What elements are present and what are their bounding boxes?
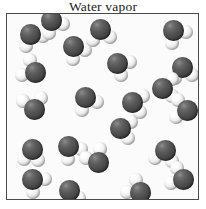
oxygen-atom bbox=[177, 100, 198, 121]
oxygen-atom bbox=[22, 139, 43, 160]
oxygen-atom bbox=[63, 36, 84, 57]
oxygen-atom bbox=[75, 87, 96, 108]
oxygen-atom bbox=[24, 99, 45, 120]
oxygen-atom bbox=[58, 136, 79, 157]
oxygen-atom bbox=[107, 53, 128, 74]
oxygen-atom bbox=[130, 182, 151, 201]
oxygen-atom bbox=[90, 19, 111, 40]
figure-title: Water vapor bbox=[0, 0, 206, 14]
container-box bbox=[6, 13, 199, 200]
oxygen-atom bbox=[41, 13, 62, 31]
oxygen-atom bbox=[163, 20, 184, 41]
oxygen-atom bbox=[173, 169, 194, 190]
oxygen-atom bbox=[155, 140, 176, 161]
oxygen-atom bbox=[25, 62, 46, 83]
oxygen-atom bbox=[20, 24, 41, 45]
oxygen-atom bbox=[59, 180, 80, 201]
oxygen-atom bbox=[22, 169, 43, 190]
oxygen-atom bbox=[110, 118, 131, 139]
water-vapor-figure: Water vapor bbox=[0, 0, 206, 209]
oxygen-atom bbox=[122, 92, 143, 113]
oxygen-atom bbox=[152, 78, 173, 99]
oxygen-atom bbox=[88, 152, 109, 173]
